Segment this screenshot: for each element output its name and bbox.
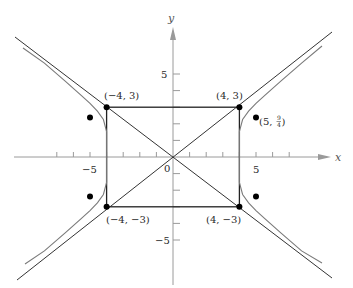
label-neg4-3: (−4, 3) — [104, 90, 139, 101]
point-4-neg3 — [236, 204, 242, 210]
point-neg4-neg3 — [104, 204, 110, 210]
point-neg5-9over4 — [87, 115, 93, 121]
asymptote-positive — [17, 32, 332, 280]
label-neg4-neg3: (−4, −3) — [106, 214, 150, 225]
hyperbola-left-branch — [23, 48, 107, 264]
y-axis-label: y — [167, 12, 175, 25]
label-5-9over4: (5, 9 4 ) — [259, 114, 286, 128]
label-4-neg3: (4, −3) — [206, 214, 241, 225]
x-tick-label-neg5: −5 — [82, 164, 97, 175]
hyperbola-right-branch — [239, 46, 322, 263]
svg-text:): ) — [282, 116, 286, 127]
y-tick-label-5: 5 — [161, 69, 167, 80]
point-5-neg9over4 — [253, 194, 259, 200]
svg-text:9: 9 — [277, 114, 281, 121]
hyperbola-diagram: x y −5 5 5 −5 0 (−4, 3) (4, 3) (−4, −3) … — [0, 0, 353, 288]
svg-text:4: 4 — [277, 121, 281, 128]
y-tick-label-neg5: −5 — [155, 235, 170, 246]
y-axis-arrow-icon — [170, 27, 176, 40]
origin-label: 0 — [164, 163, 170, 174]
x-tick-label-5: 5 — [253, 164, 259, 175]
point-neg5-neg9over4 — [87, 194, 93, 200]
point-neg4-3 — [104, 104, 110, 110]
label-4-3: (4, 3) — [216, 90, 243, 101]
x-axis-arrow-icon — [318, 154, 331, 160]
x-axis-label: x — [335, 151, 342, 164]
point-4-3 — [236, 104, 242, 110]
axes — [14, 27, 331, 285]
svg-text:(5,: (5, — [259, 116, 272, 127]
